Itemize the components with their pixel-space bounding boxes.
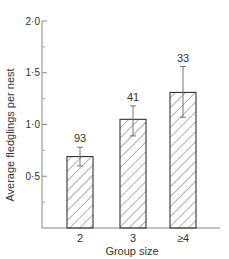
- x-tick-label: ≥4: [177, 232, 189, 244]
- x-tick-label: 2: [77, 232, 83, 244]
- y-axis-title: Average fledglings per nest: [4, 68, 16, 201]
- y-tick-label: 2·0: [26, 16, 41, 27]
- sample-size-label: 33: [177, 52, 189, 64]
- bar-chart: 0·51·01·52·0 93241333≥4Group sizeAverage…: [0, 0, 229, 259]
- labels: 93241333≥4Group sizeAverage fledglings p…: [4, 52, 189, 257]
- x-tick-label: 3: [130, 232, 136, 244]
- sample-size-label: 93: [74, 132, 86, 144]
- bar: [67, 157, 93, 228]
- x-axis-title: Group size: [105, 245, 158, 257]
- y-tick-label: 1·5: [26, 67, 41, 78]
- sample-size-label: 41: [127, 91, 139, 103]
- y-tick-label: 1·0: [26, 119, 41, 130]
- y-tick-label: 0·5: [26, 171, 41, 182]
